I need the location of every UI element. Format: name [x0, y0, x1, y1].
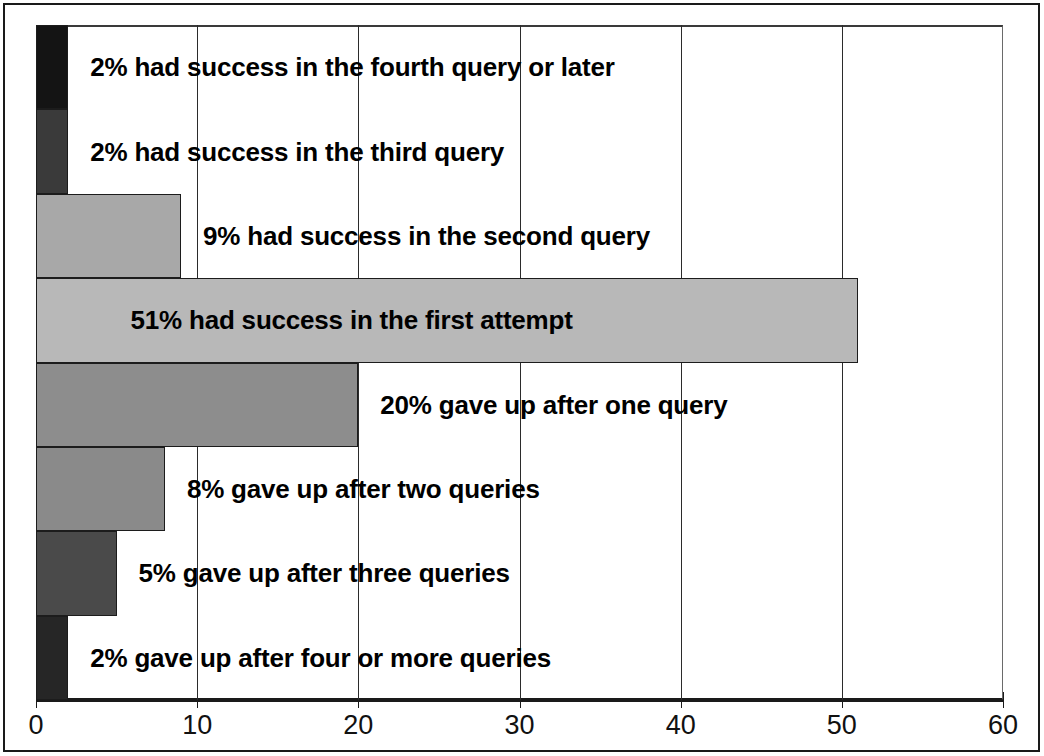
bar-band: 2% gave up after four or more queries — [36, 616, 1003, 700]
bar — [36, 194, 181, 278]
x-tick-label: 10 — [182, 710, 212, 741]
x-tick-label: 40 — [666, 710, 696, 741]
x-tick-label: 60 — [988, 710, 1018, 741]
bar-band: 2% had success in the fourth query or la… — [36, 25, 1003, 109]
bar-annotation: 2% gave up after four or more queries — [90, 642, 551, 673]
chart-figure: 2% had success in the fourth query or la… — [0, 0, 1044, 756]
bar-annotation: 5% gave up after three queries — [139, 558, 510, 589]
bar-annotation: 9% had success in the second query — [203, 220, 650, 251]
bar-annotation: 20% gave up after one query — [380, 389, 727, 420]
bar-annotation: 8% gave up after two queries — [187, 474, 540, 505]
bar — [36, 447, 165, 531]
bar — [36, 616, 68, 700]
x-tick-label: 50 — [827, 710, 857, 741]
bar-band: 8% gave up after two queries — [36, 447, 1003, 531]
bar — [36, 531, 117, 615]
bar-band: 20% gave up after one query — [36, 363, 1003, 447]
bar-band: 9% had success in the second query — [36, 194, 1003, 278]
plot-area: 2% had success in the fourth query or la… — [36, 25, 1003, 700]
bar-band: 2% had success in the third query — [36, 109, 1003, 193]
x-tick-label: 0 — [28, 710, 43, 741]
bar — [36, 109, 68, 193]
bar-band: 51% had success in the first attempt — [36, 278, 1003, 362]
bar-annotation: 51% had success in the first attempt — [131, 305, 573, 336]
bar — [36, 363, 358, 447]
x-tick-label: 20 — [343, 710, 373, 741]
x-tick — [1003, 692, 1004, 708]
bar-series: 2% had success in the fourth query or la… — [36, 25, 1003, 700]
bar-annotation: 2% had success in the third query — [90, 136, 504, 167]
x-tick-label: 30 — [504, 710, 534, 741]
bar — [36, 25, 68, 109]
bar-annotation: 2% had success in the fourth query or la… — [90, 52, 615, 83]
bar-band: 5% gave up after three queries — [36, 531, 1003, 615]
